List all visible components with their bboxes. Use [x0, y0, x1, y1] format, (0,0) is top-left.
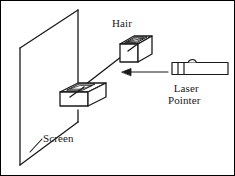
laser-pointer-body: [172, 63, 228, 75]
label-laser-line-1: Laser: [172, 82, 200, 94]
label-hair: Hair: [112, 18, 132, 30]
hair-front-face: [120, 44, 138, 62]
label-laser-line-2: Pointer: [168, 94, 200, 106]
label-laser-pointer: Laser Pointer: [172, 82, 200, 106]
label-screen: Screen: [43, 133, 74, 145]
physics-diagram-laser-hair-screen: Hair Laser Pointer Screen: [0, 0, 235, 176]
